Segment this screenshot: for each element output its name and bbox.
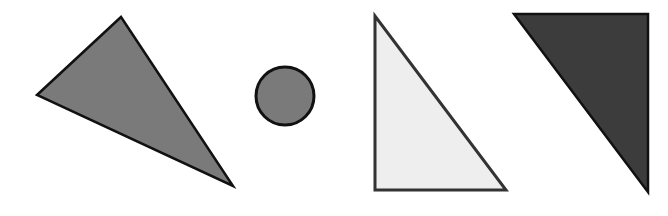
shape-canvas [0, 0, 668, 216]
circle-gray[interactable] [256, 67, 314, 125]
